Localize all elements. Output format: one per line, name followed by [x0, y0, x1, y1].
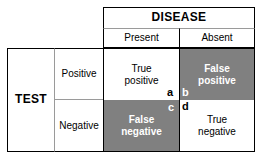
disease-group-header-label: DISEASE: [152, 11, 207, 24]
row-header-positive: Positive: [55, 48, 103, 100]
column-header-present-label: Present: [124, 32, 158, 43]
row-header-negative-label: Negative: [59, 120, 98, 131]
disease-group-header: DISEASE: [103, 7, 255, 28]
column-header-absent-label: Absent: [201, 32, 232, 43]
cell-false-negative-label: False negative: [121, 114, 162, 136]
marker-b: b: [182, 87, 189, 98]
cell-true-positive-label: True positive: [125, 63, 159, 85]
column-header-absent: Absent: [179, 28, 255, 48]
column-header-present: Present: [103, 28, 179, 48]
marker-a: a: [167, 87, 173, 98]
test-group-header: TEST: [7, 48, 55, 152]
contingency-table: DISEASE Present Absent TEST Positive Neg…: [0, 0, 263, 163]
cell-true-negative-label: True negative: [198, 114, 236, 136]
marker-c: c: [168, 102, 174, 113]
marker-d: d: [182, 101, 189, 112]
cell-true-negative: True negative: [179, 100, 255, 152]
cell-false-positive: False positive: [179, 48, 255, 100]
row-header-negative: Negative: [55, 100, 103, 152]
test-group-header-label: TEST: [15, 93, 47, 106]
cell-false-positive-label: False positive: [198, 63, 236, 85]
row-header-positive-label: Positive: [61, 68, 96, 79]
